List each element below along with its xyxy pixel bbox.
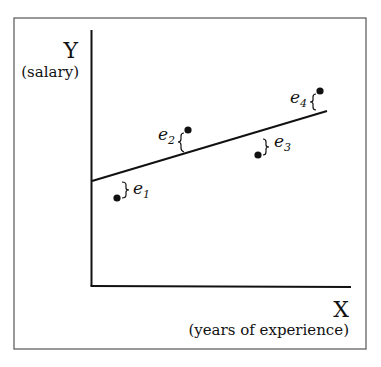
data-point-1 [113, 194, 120, 201]
data-point-3 [254, 151, 261, 158]
regression-diagram: Y (salary) X (years of experience) e1 e2… [0, 0, 381, 367]
y-axis-description: (salary) [21, 63, 79, 81]
x-axis [91, 286, 352, 287]
data-point-2 [184, 126, 191, 133]
data-point-4 [316, 87, 323, 94]
x-axis-description: (years of experience) [188, 321, 349, 339]
x-axis-letter: X [333, 297, 349, 322]
y-axis-letter: Y [62, 38, 78, 63]
